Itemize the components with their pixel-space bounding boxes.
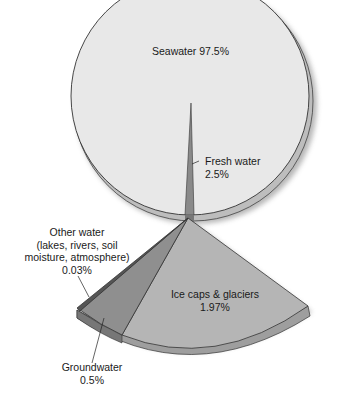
ice-caps-title: Ice caps & glaciers — [160, 288, 270, 301]
other-water-value: 0.03% — [22, 264, 132, 277]
groundwater-value: 0.5% — [52, 374, 132, 387]
other-water-line2: (lakes, rivers, soil — [22, 239, 132, 252]
other-water-line1: Other water — [22, 226, 132, 239]
groundwater-label: Groundwater 0.5% — [52, 361, 132, 386]
ice-caps-value: 1.97% — [160, 301, 270, 314]
other-water-leader — [78, 276, 89, 297]
seawater-label-text: Seawater 97.5% — [152, 45, 229, 58]
other-water-label: Other water (lakes, rivers, soil moistur… — [22, 226, 132, 276]
water-distribution-chart — [0, 0, 340, 417]
fresh-water-value: 2.5% — [205, 168, 260, 181]
ice-caps-label: Ice caps & glaciers 1.97% — [160, 288, 270, 313]
seawater-label: Seawater 97.5% — [152, 45, 229, 58]
other-water-line3: moisture, atmosphere) — [22, 251, 132, 264]
fresh-water-title: Fresh water — [205, 155, 260, 168]
fresh-water-label: Fresh water 2.5% — [205, 155, 260, 180]
groundwater-title: Groundwater — [52, 361, 132, 374]
